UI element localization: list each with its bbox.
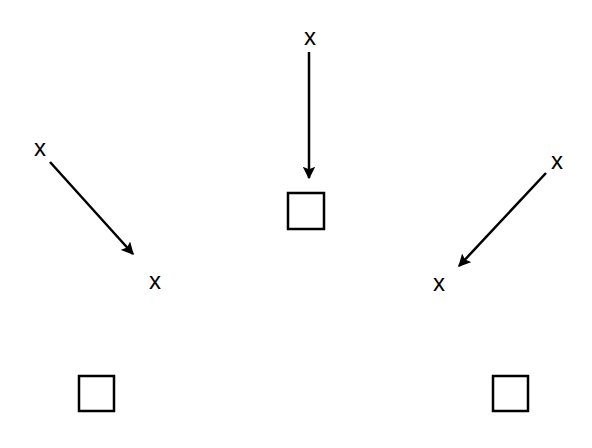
arrow-right <box>459 173 546 266</box>
x-left-end-marker: x <box>149 269 161 293</box>
x-right-start-marker: x <box>551 149 563 173</box>
x-left-start-marker: x <box>34 136 46 160</box>
squares-layer <box>79 193 528 411</box>
square-center <box>288 193 324 229</box>
x-right-end-marker: x <box>433 271 445 295</box>
square-bottom-right <box>493 376 528 411</box>
diagram-canvas <box>0 0 592 448</box>
arrow-left <box>50 162 133 254</box>
x-top-marker: x <box>304 25 316 49</box>
arrows-layer <box>50 52 546 266</box>
square-bottom-left <box>79 376 114 411</box>
